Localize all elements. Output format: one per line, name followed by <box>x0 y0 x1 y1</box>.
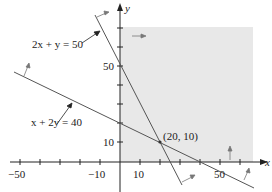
y-tick-label-10: 10 <box>103 136 115 148</box>
y-axis-label: y <box>124 2 130 14</box>
x-tick-label-neg10: −10 <box>88 168 106 180</box>
intersection-label: (20, 10) <box>163 130 198 143</box>
graph: 2x + y = 50 x + 2y = 40 (20, 10) x y −50… <box>0 0 272 192</box>
x-axis-label: x <box>264 156 270 168</box>
y-tick-label-50: 50 <box>103 60 115 72</box>
x-tick-label-50: 50 <box>214 168 226 180</box>
y-axis-arrow-icon <box>117 3 123 11</box>
label-x-plus-2y-40: x + 2y = 40 <box>31 116 82 128</box>
x-tick-label-neg50: −50 <box>8 168 26 180</box>
x-tick-label-10: 10 <box>133 168 145 180</box>
intersection-point <box>158 140 161 143</box>
label-2x-plus-y-50: 2x + y = 50 <box>32 38 83 50</box>
